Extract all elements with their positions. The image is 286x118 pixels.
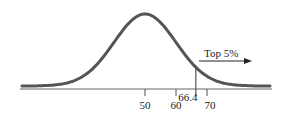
tick-label: 70 xyxy=(205,99,217,111)
normal-distribution-chart: 506070 66.4 Top 5% xyxy=(0,0,286,118)
arrowhead-icon xyxy=(244,58,252,64)
top-percent-label: Top 5% xyxy=(204,47,238,59)
tick-label: 50 xyxy=(140,99,152,111)
cutoff-label: 66.4 xyxy=(178,91,198,103)
